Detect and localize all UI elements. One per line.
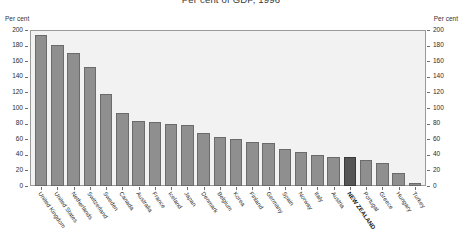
y-tick-right-mark bbox=[427, 124, 430, 125]
x-label-cell: Sweden bbox=[98, 187, 114, 245]
y-tick-right-mark bbox=[427, 155, 430, 156]
x-label-cell: NEW ZEALAND bbox=[342, 187, 358, 245]
bar-cell bbox=[309, 31, 325, 186]
y-axis-left-unit-label: Per cent bbox=[5, 15, 29, 22]
x-label-cell: Portugal bbox=[358, 187, 374, 245]
bar-cell bbox=[114, 31, 130, 186]
bar-cell bbox=[358, 31, 374, 186]
bar[interactable] bbox=[165, 124, 177, 186]
y-tick-left-mark bbox=[25, 124, 28, 125]
y-tick-right: 160 bbox=[433, 58, 444, 65]
y-axis-right-unit-label: Per cent bbox=[434, 15, 458, 22]
y-tick-left-mark bbox=[25, 139, 28, 140]
bar-cell bbox=[342, 31, 358, 186]
bar[interactable] bbox=[392, 173, 404, 186]
y-tick-left: 0 bbox=[19, 183, 23, 190]
x-label-cell: Turkey bbox=[407, 187, 423, 245]
x-axis-label: Turkey bbox=[411, 191, 426, 209]
bar-cell bbox=[147, 31, 163, 186]
bar-cell bbox=[131, 31, 147, 186]
x-label-cell: Korea bbox=[228, 187, 244, 245]
bar-chart: Per cent of GDP, 1996 Per cent Per cent … bbox=[0, 0, 462, 245]
bar-cell bbox=[98, 31, 114, 186]
bar-cell bbox=[374, 31, 390, 186]
y-axis-left: 200180160140120100806040200 bbox=[0, 30, 28, 186]
bar-cell bbox=[407, 31, 423, 186]
bar-cell bbox=[228, 31, 244, 186]
y-tick-left-mark bbox=[25, 108, 28, 109]
x-label-cell: Denmark bbox=[196, 187, 212, 245]
bar[interactable] bbox=[197, 133, 209, 186]
bar[interactable] bbox=[360, 160, 372, 186]
bar[interactable] bbox=[149, 122, 161, 186]
y-tick-left: 80 bbox=[16, 120, 23, 127]
y-tick-right-mark bbox=[427, 77, 430, 78]
y-tick-right-mark bbox=[427, 186, 430, 187]
bar[interactable] bbox=[327, 157, 339, 186]
y-tick-right: 120 bbox=[433, 89, 444, 96]
bar-cell bbox=[33, 31, 49, 186]
bar-cell bbox=[277, 31, 293, 186]
bar-cell bbox=[196, 31, 212, 186]
bar[interactable] bbox=[262, 143, 274, 186]
y-tick-right-mark bbox=[427, 92, 430, 93]
bar[interactable] bbox=[181, 125, 193, 186]
bar[interactable] bbox=[214, 137, 226, 186]
y-tick-left-mark bbox=[25, 30, 28, 31]
y-tick-left-mark bbox=[25, 186, 28, 187]
y-tick-right-mark bbox=[427, 139, 430, 140]
y-tick-right: 40 bbox=[433, 151, 440, 158]
x-label-cell: Belgium bbox=[212, 187, 228, 245]
y-tick-right: 200 bbox=[433, 27, 444, 34]
y-tick-left-mark bbox=[25, 92, 28, 93]
y-tick-left: 140 bbox=[12, 73, 23, 80]
bar[interactable] bbox=[116, 113, 128, 186]
bar-cell bbox=[179, 31, 195, 186]
bar[interactable] bbox=[246, 142, 258, 186]
bar[interactable] bbox=[230, 139, 242, 186]
y-tick-left: 40 bbox=[16, 151, 23, 158]
bar-cell bbox=[293, 31, 309, 186]
bar[interactable] bbox=[376, 163, 388, 186]
y-axis-right: 200180160140120100806040200 bbox=[427, 30, 455, 186]
y-tick-right: 180 bbox=[433, 42, 444, 49]
y-tick-right: 0 bbox=[433, 183, 437, 190]
bar[interactable] bbox=[311, 155, 323, 186]
y-tick-left: 20 bbox=[16, 167, 23, 174]
y-tick-right: 20 bbox=[433, 167, 440, 174]
x-label-cell: Norway bbox=[293, 187, 309, 245]
y-tick-right-mark bbox=[427, 30, 430, 31]
bar-cell bbox=[163, 31, 179, 186]
bar[interactable] bbox=[279, 149, 291, 186]
bar-cell bbox=[261, 31, 277, 186]
y-tick-left: 60 bbox=[16, 136, 23, 143]
x-label-cell: Finland bbox=[244, 187, 260, 245]
x-label-cell: Iceland bbox=[163, 187, 179, 245]
bar-cell bbox=[244, 31, 260, 186]
bar[interactable] bbox=[35, 35, 47, 186]
y-tick-right: 60 bbox=[433, 136, 440, 143]
bar[interactable] bbox=[409, 183, 421, 186]
bar-cell bbox=[82, 31, 98, 186]
y-tick-left-mark bbox=[25, 77, 28, 78]
bar[interactable] bbox=[295, 152, 307, 186]
y-tick-right-mark bbox=[427, 61, 430, 62]
x-label-cell: Netherlands bbox=[66, 187, 82, 245]
y-tick-right-mark bbox=[427, 108, 430, 109]
y-tick-right: 140 bbox=[433, 73, 444, 80]
y-tick-left: 180 bbox=[12, 42, 23, 49]
bar-highlighted[interactable] bbox=[344, 157, 356, 186]
x-label-cell: Japan bbox=[179, 187, 195, 245]
bar[interactable] bbox=[84, 67, 96, 186]
x-label-cell: Australia bbox=[131, 187, 147, 245]
x-label-cell: France bbox=[147, 187, 163, 245]
x-label-cell: Canada bbox=[114, 187, 130, 245]
bar[interactable] bbox=[51, 45, 63, 186]
bar-cell bbox=[66, 31, 82, 186]
bar[interactable] bbox=[100, 94, 112, 186]
x-label-cell: Austria bbox=[326, 187, 342, 245]
bar-cell bbox=[391, 31, 407, 186]
bar-cell bbox=[326, 31, 342, 186]
bar[interactable] bbox=[67, 53, 79, 186]
bar[interactable] bbox=[132, 121, 144, 186]
